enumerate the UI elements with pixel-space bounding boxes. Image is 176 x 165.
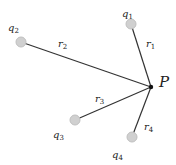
label-q1: q1	[122, 8, 133, 21]
label-r3: r3	[95, 93, 104, 106]
charge-q2	[16, 37, 26, 47]
charges	[16, 19, 137, 142]
label-q4: q4	[112, 149, 123, 162]
charge-q4	[127, 132, 137, 142]
label-r4: r4	[144, 121, 154, 134]
charge-q3	[70, 115, 80, 125]
point-p-dot	[149, 85, 153, 89]
point-p-label: P	[158, 73, 170, 91]
line-r2	[21, 42, 151, 87]
label-r1: r1	[146, 38, 155, 51]
label-q2: q2	[8, 22, 19, 35]
line-r3	[75, 87, 151, 120]
label-q3: q3	[53, 129, 64, 142]
distance-lines	[21, 24, 151, 137]
charges-diagram: P q1 q2 q3 q4 r1 r2 r3 r4	[0, 0, 176, 165]
line-r1	[131, 24, 151, 87]
label-r2: r2	[58, 38, 67, 51]
